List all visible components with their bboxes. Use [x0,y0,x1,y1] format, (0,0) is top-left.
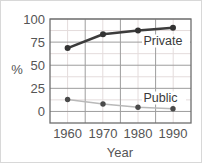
x-axis-title: Year [107,145,134,160]
line-chart: Private Public 100 75 50 25 0 % 1960 197… [1,1,201,162]
y-tick-0: 0 [38,104,45,119]
private-point-1970 [100,31,106,37]
public-point-1980 [135,105,140,110]
private-point-1990 [170,25,176,31]
x-tick-1980: 1980 [124,126,153,141]
x-tick-1970: 1970 [89,126,118,141]
series-label-private: Private [144,34,183,48]
y-tick-100: 100 [23,12,45,27]
private-point-1980 [135,28,141,34]
y-axis-title: % [11,62,23,77]
y-tick-75: 75 [31,35,45,50]
y-tick-50: 50 [31,58,45,73]
chart-canvas: Private Public 100 75 50 25 0 % 1960 197… [1,1,201,162]
public-point-1970 [100,101,105,106]
series-label-public: Public [144,91,178,105]
private-point-1960 [65,45,71,51]
public-point-1990 [170,106,175,111]
x-tick-1960: 1960 [53,126,82,141]
x-tick-1990: 1990 [159,126,188,141]
public-point-1960 [65,97,70,102]
y-tick-25: 25 [31,81,45,96]
